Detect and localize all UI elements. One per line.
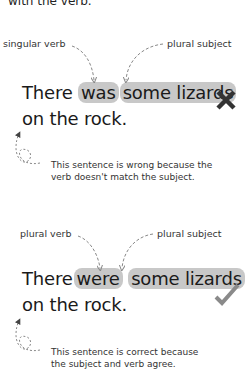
cross-icon <box>218 92 234 108</box>
annotation-overlay <box>0 0 245 374</box>
arrow-singular-verb <box>72 46 94 80</box>
loop-arrow-icon <box>16 321 40 351</box>
arrow-plural-verb <box>78 236 100 268</box>
arrow-plural-subject <box>126 44 163 80</box>
arrow-plural-subject-2 <box>122 234 153 268</box>
loop-arrow-icon <box>16 134 40 164</box>
checkmark-icon <box>216 285 238 303</box>
